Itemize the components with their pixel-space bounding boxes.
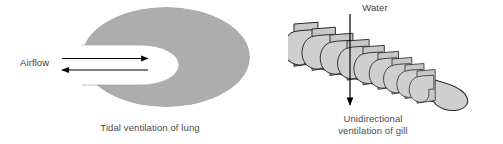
lung-caption: Tidal ventilation of lung xyxy=(0,122,300,134)
gill-lamellae xyxy=(288,22,435,103)
gill-caption: Unidirectional ventilation of gill xyxy=(278,113,468,137)
gill-caption-line-2: ventilation of gill xyxy=(278,125,468,137)
water-label: Water xyxy=(345,2,405,14)
airflow-label: Airflow xyxy=(20,57,49,69)
gill-caption-line-1: Unidirectional xyxy=(278,113,468,125)
lung-body xyxy=(82,7,250,107)
ventilation-figure: Airflow Water Tidal ventilation of lung … xyxy=(0,0,503,144)
